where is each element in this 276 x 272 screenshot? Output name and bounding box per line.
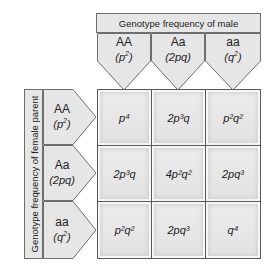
male-genotype-aa: aa (q2) bbox=[205, 33, 261, 91]
male-genotype-AA: AA (p2) bbox=[97, 33, 151, 91]
genotype-label: AA bbox=[97, 36, 151, 48]
frequency-label: (p2) bbox=[43, 115, 81, 130]
genotype-label: aa bbox=[205, 36, 261, 48]
matrix-cell-AA-AA: p⁴ bbox=[97, 89, 152, 146]
frequency-label: (p2) bbox=[97, 48, 151, 63]
frequency-label: (2pq) bbox=[43, 171, 81, 186]
female-genotype-Aa: Aa (2pq) bbox=[43, 145, 97, 201]
matrix-cell-aa-aa: q⁴ bbox=[205, 201, 261, 259]
matrix-cell-Aa-Aa: 4p²q² bbox=[151, 145, 206, 202]
matrix-cell-AA-Aa: 2p³q bbox=[151, 89, 206, 146]
male-header-label: Genotype frequency of male bbox=[119, 18, 238, 29]
female-genotype-AA: AA (p2) bbox=[43, 89, 97, 145]
matrix-cell-Aa-aa: 2pq³ bbox=[205, 145, 261, 202]
frequency-label: (q2) bbox=[205, 48, 261, 63]
frequency-label: (q2) bbox=[43, 228, 81, 243]
genotype-label: Aa bbox=[151, 36, 205, 48]
female-genotype-aa: aa (q2) bbox=[43, 201, 97, 259]
male-genotype-header: Genotype frequency of male bbox=[96, 13, 261, 33]
matrix-cell-AA-aa: p²q² bbox=[205, 89, 261, 146]
frequency-label: (2pq) bbox=[151, 48, 205, 63]
female-header-label: Genotype frequency of female parent bbox=[28, 96, 39, 253]
matrix-cell-aa-Aa: 2pq³ bbox=[151, 201, 206, 259]
genotype-label: aa bbox=[43, 216, 81, 228]
genotype-label: Aa bbox=[43, 159, 81, 171]
male-genotype-Aa: Aa (2pq) bbox=[151, 33, 205, 91]
genotype-label: AA bbox=[43, 103, 81, 115]
female-genotype-header: Genotype frequency of female parent bbox=[24, 89, 43, 259]
matrix-cell-aa-AA: p²q² bbox=[97, 201, 152, 259]
matrix-cell-Aa-AA: 2p³q bbox=[97, 145, 152, 202]
